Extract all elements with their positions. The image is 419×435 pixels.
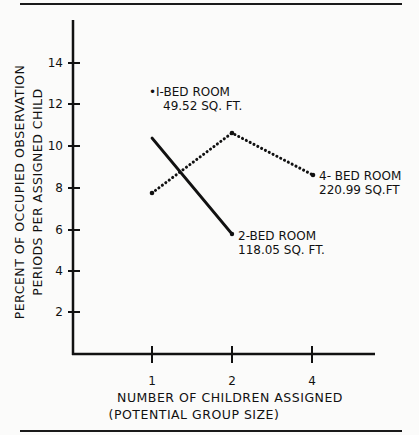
y-tick-label: 2 xyxy=(55,305,63,319)
annotation-area: 220.99 SQ.FT xyxy=(319,183,400,197)
y-tick-label: 6 xyxy=(55,223,63,237)
annotation-4-bed-room: 4- BED ROOM 220.99 SQ.FT xyxy=(319,169,401,197)
y-axis-title: PERCENT OF OCCUPIED OBSERVATION xyxy=(12,65,27,320)
x-tick-label: 1 xyxy=(148,374,156,388)
annotation-area: 118.05 SQ. FT. xyxy=(238,243,325,257)
x-tick-label: 2 xyxy=(228,374,236,388)
x-ticks: 1 2 4 xyxy=(148,346,316,388)
dotted-series-line xyxy=(152,133,313,193)
annotation-2-bed-room: 2-BED ROOM 118.05 SQ. FT. xyxy=(238,229,325,257)
annotation-area: 49.52 SQ. FT. xyxy=(163,99,242,113)
y-tick-label: 8 xyxy=(55,181,63,195)
solid-series-end-point xyxy=(230,232,234,236)
annotation-label: •I-BED ROOM xyxy=(149,85,230,99)
annotation-label: 4- BED ROOM xyxy=(319,169,401,183)
y-tick-label: 4 xyxy=(55,264,63,278)
y-ticks: 2 4 6 8 10 12 14 xyxy=(48,56,80,319)
dotted-series-peak-point xyxy=(230,131,235,136)
y-tick-label: 12 xyxy=(48,97,63,111)
x-tick-label: 4 xyxy=(308,374,316,388)
y-tick-label: 14 xyxy=(48,56,63,70)
annotation-1-bed-room: •I-BED ROOM 49.52 SQ. FT. xyxy=(149,85,242,113)
y-axis-title-line2: PERIODS PER ASSIGNED CHILD xyxy=(30,88,45,295)
x-axis-title: NUMBER OF CHILDREN ASSIGNED xyxy=(117,390,343,405)
dotted-series-start-point xyxy=(150,191,155,196)
line-chart: 2 4 6 8 10 12 14 1 2 4 •I-BED ROOM 49.52… xyxy=(0,0,419,435)
x-axis-title-line2: (POTENTIAL GROUP SIZE) xyxy=(109,407,280,422)
dotted-series-end-point xyxy=(311,173,316,178)
solid-series-line xyxy=(152,138,232,234)
annotation-label: 2-BED ROOM xyxy=(238,229,316,243)
y-tick-label: 10 xyxy=(48,139,63,153)
